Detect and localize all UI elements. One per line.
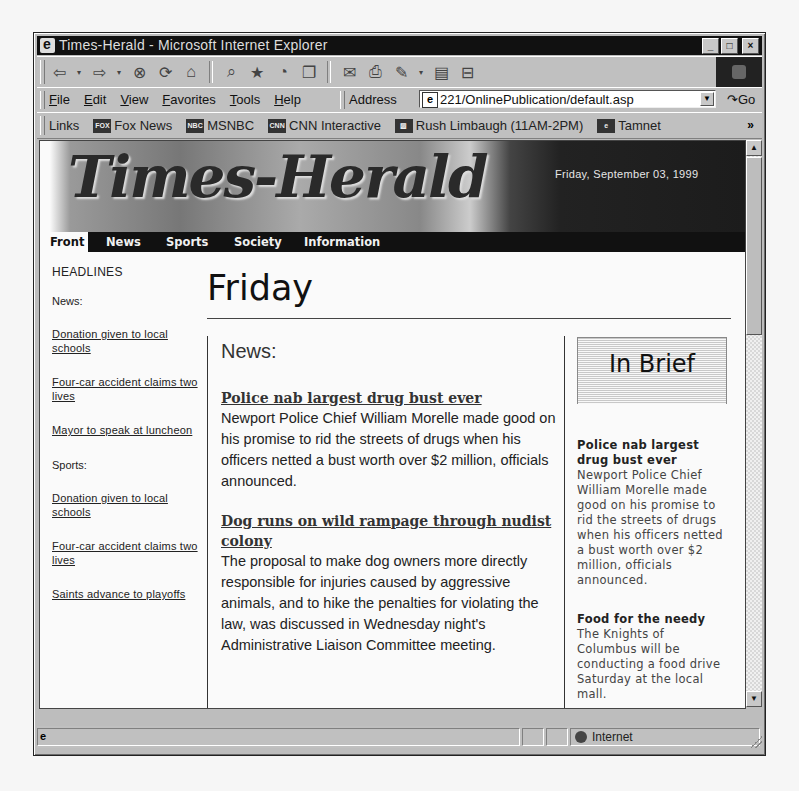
links-grip[interactable] bbox=[40, 116, 45, 135]
address-dropdown-icon[interactable]: ▼ bbox=[700, 92, 714, 106]
menu-view[interactable]: View bbox=[120, 92, 148, 107]
menu-help[interactable]: Help bbox=[274, 92, 301, 107]
windows-flag-icon bbox=[732, 65, 746, 79]
vertical-scrollbar[interactable]: ▲ ▼ bbox=[746, 140, 762, 707]
links-more-icon[interactable]: » bbox=[747, 118, 754, 132]
menu-address-bar: File Edit View Favorites Tools Help Addr… bbox=[37, 87, 762, 113]
story-headline-link[interactable]: Dog runs on wild rampage through nudist … bbox=[221, 511, 556, 551]
close-button[interactable]: × bbox=[742, 38, 759, 54]
history-icon[interactable]: ◔ bbox=[273, 62, 293, 82]
page-status-icon: e bbox=[40, 730, 46, 742]
address-label: Address bbox=[349, 92, 397, 107]
back-icon[interactable]: ⇦ bbox=[49, 62, 69, 82]
in-brief-column: In Brief Police nab largest drug bust ev… bbox=[577, 337, 727, 702]
address-grip[interactable] bbox=[340, 91, 345, 109]
menu-file[interactable]: File bbox=[49, 92, 70, 107]
nav-news[interactable]: News bbox=[106, 235, 141, 249]
page-icon: e bbox=[422, 92, 438, 108]
forward-icon[interactable]: ⇨ bbox=[89, 62, 109, 82]
address-field[interactable]: e ▼ bbox=[419, 90, 716, 108]
sidebar-news-link[interactable]: Donation given to local schools bbox=[52, 327, 202, 355]
messenger-icon[interactable]: ⊟ bbox=[457, 62, 477, 82]
maximize-button[interactable]: □ bbox=[721, 38, 738, 54]
nav-information[interactable]: Information bbox=[304, 235, 380, 249]
sidebar-sports-link[interactable]: Saints advance to playoffs bbox=[52, 587, 202, 601]
sidebar-news-link[interactable]: Mayor to speak at luncheon bbox=[52, 423, 202, 437]
link-label: Rush Limbaugh (11AM-2PM) bbox=[416, 118, 583, 133]
brief-headline: Food for the needy bbox=[577, 612, 727, 627]
resize-grip[interactable] bbox=[750, 736, 762, 748]
sidebar-sports-link[interactable]: Donation given to local schools bbox=[52, 491, 202, 519]
site-nav: Front News Sports Society Information bbox=[40, 232, 745, 252]
page-title: Friday bbox=[207, 268, 313, 308]
back-dropdown-icon[interactable]: ▾ bbox=[75, 62, 83, 82]
print-icon[interactable]: ⎙ bbox=[365, 62, 385, 82]
zone-label: Internet bbox=[592, 730, 633, 744]
link-rush-limbaugh[interactable]: ▨Rush Limbaugh (11AM-2PM) bbox=[395, 118, 583, 133]
scroll-up-button[interactable]: ▲ bbox=[746, 140, 762, 156]
fox-icon: FOX bbox=[93, 119, 111, 133]
link-msnbc[interactable]: NBCMSNBC bbox=[186, 118, 254, 133]
stop-icon[interactable]: ⊗ bbox=[129, 62, 149, 82]
title-bar[interactable]: Times-Herald - Microsoft Internet Explor… bbox=[37, 36, 762, 55]
status-text-cell: e bbox=[37, 728, 520, 746]
status-bar: e Internet bbox=[37, 726, 762, 748]
status-cell bbox=[522, 728, 544, 746]
link-cnn[interactable]: CNNCNN Interactive bbox=[268, 118, 381, 133]
link-tamnet[interactable]: eTamnet bbox=[597, 118, 661, 133]
brief-item: Food for the needy The Knights of Columb… bbox=[577, 612, 727, 702]
story-headline-link[interactable]: Police nab largest drug bust ever bbox=[221, 388, 556, 408]
masthead-logo: Times-Herald bbox=[68, 143, 487, 211]
channels-icon[interactable]: ❐ bbox=[299, 62, 319, 82]
rush-icon: ▨ bbox=[395, 119, 413, 133]
minimize-button[interactable]: _ bbox=[702, 38, 719, 54]
msnbc-icon: NBC bbox=[186, 119, 204, 133]
menu-tools[interactable]: Tools bbox=[230, 92, 260, 107]
search-icon[interactable]: ⌕ bbox=[221, 62, 241, 82]
go-arrow-icon: ↷ bbox=[727, 92, 738, 107]
story-body: Newport Police Chief William Morelle mad… bbox=[221, 410, 555, 489]
go-button[interactable]: ↷Go bbox=[727, 92, 755, 107]
menu-grip[interactable] bbox=[40, 91, 45, 109]
link-label: Tamnet bbox=[618, 118, 661, 133]
browser-window: Times-Herald - Microsoft Internet Explor… bbox=[33, 32, 766, 756]
menu-bar: File Edit View Favorites Tools Help bbox=[49, 92, 301, 107]
discuss-icon[interactable]: ▤ bbox=[431, 62, 451, 82]
menu-edit[interactable]: Edit bbox=[84, 92, 106, 107]
nav-front[interactable]: Front bbox=[40, 232, 88, 252]
forward-dropdown-icon[interactable]: ▾ bbox=[115, 62, 123, 82]
page-viewport: Times-Herald Friday, September 03, 1999 … bbox=[39, 140, 746, 709]
scroll-down-button[interactable]: ▼ bbox=[746, 691, 762, 707]
mail-icon[interactable]: ✉ bbox=[339, 62, 359, 82]
news-label: News: bbox=[52, 295, 202, 307]
edit-icon[interactable]: ✎ bbox=[391, 62, 411, 82]
edit-dropdown-icon[interactable]: ▾ bbox=[417, 62, 425, 82]
sidebar-news-link[interactable]: Four-car accident claims two lives bbox=[52, 375, 202, 403]
refresh-icon[interactable]: ⟳ bbox=[155, 62, 175, 82]
status-cell bbox=[546, 728, 568, 746]
ie-page-icon: e bbox=[597, 119, 615, 133]
sidebar-sports-link[interactable]: Four-car accident claims two lives bbox=[52, 539, 202, 567]
address-input[interactable] bbox=[440, 91, 692, 107]
go-label: Go bbox=[738, 92, 755, 107]
story: Dog runs on wild rampage through nudist … bbox=[221, 511, 556, 656]
sports-label: Sports: bbox=[52, 459, 202, 471]
toolbar-grip[interactable] bbox=[40, 60, 45, 84]
brief-body: Newport Police Chief William Morelle mad… bbox=[577, 468, 723, 587]
toolbar-separator bbox=[327, 61, 331, 83]
date-display: Friday, September 03, 1999 bbox=[555, 168, 698, 180]
menu-favorites[interactable]: Favorites bbox=[162, 92, 215, 107]
brief-item: Police nab largest drug bust ever Newpor… bbox=[577, 438, 727, 588]
nav-society[interactable]: Society bbox=[234, 235, 282, 249]
cnn-icon: CNN bbox=[268, 119, 286, 133]
masthead-banner: Times-Herald Friday, September 03, 1999 bbox=[40, 141, 745, 232]
links-label: Links bbox=[49, 118, 79, 133]
link-fox-news[interactable]: FOXFox News bbox=[93, 118, 172, 133]
headlines-heading: HEADLINES bbox=[52, 265, 202, 279]
story: Police nab largest drug bust ever Newpor… bbox=[221, 388, 556, 492]
link-label: CNN Interactive bbox=[289, 118, 381, 133]
scroll-thumb[interactable] bbox=[746, 157, 762, 335]
favorites-icon[interactable]: ★ bbox=[247, 62, 267, 82]
nav-sports[interactable]: Sports bbox=[166, 235, 208, 249]
home-icon[interactable]: ⌂ bbox=[181, 62, 201, 82]
